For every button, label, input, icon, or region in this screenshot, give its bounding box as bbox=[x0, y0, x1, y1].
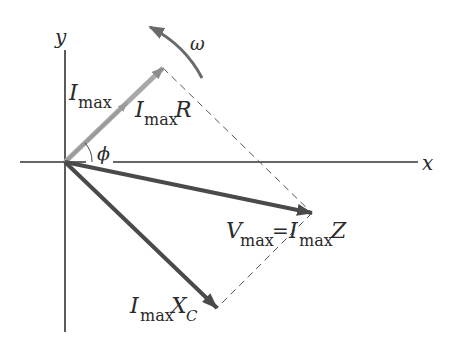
omega-label: ω bbox=[190, 33, 205, 54]
phi-label: ϕ bbox=[97, 142, 110, 164]
phasor-diagram: y x ω ϕ I max I max R V max = I max Z I … bbox=[0, 0, 455, 362]
svg-text:max: max bbox=[299, 231, 333, 250]
phasor-imax-xc bbox=[65, 162, 217, 308]
x-axis-label: x bbox=[422, 151, 433, 175]
label-vmax: V max = I max Z bbox=[226, 218, 347, 250]
y-axis-label: y bbox=[54, 25, 67, 49]
svg-text:max: max bbox=[78, 93, 112, 112]
dashed-line-r-to-z bbox=[163, 68, 312, 213]
label-imax-xc: I max X C bbox=[129, 293, 198, 325]
svg-text:I: I bbox=[288, 218, 299, 243]
svg-text:R: R bbox=[174, 97, 192, 122]
svg-text:max: max bbox=[140, 306, 174, 325]
svg-text:max: max bbox=[240, 231, 274, 250]
label-imax-r: I max R bbox=[134, 97, 192, 129]
svg-text:C: C bbox=[186, 307, 198, 325]
svg-text:=: = bbox=[272, 219, 289, 243]
phi-angle-arc bbox=[85, 143, 92, 162]
svg-text:max: max bbox=[144, 110, 178, 129]
svg-text:Z: Z bbox=[330, 218, 347, 243]
label-imax: I max bbox=[68, 80, 112, 112]
phasor-vmax bbox=[65, 162, 312, 213]
svg-text:I: I bbox=[129, 293, 140, 318]
